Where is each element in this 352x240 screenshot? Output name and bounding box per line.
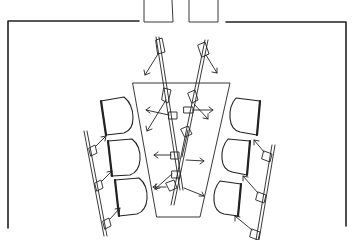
chair-icon <box>108 139 140 176</box>
chair-icon <box>101 97 133 135</box>
room-floor-plan <box>0 0 352 240</box>
door-panel-right <box>189 0 218 22</box>
chair-icon <box>222 139 250 175</box>
room-walls <box>8 21 346 228</box>
chair-icon <box>230 98 260 135</box>
center-left-stand <box>144 37 183 190</box>
double-door <box>144 0 218 22</box>
chairs-right <box>214 98 260 216</box>
chair-icon <box>214 181 241 216</box>
door-panel-left <box>144 0 173 22</box>
center-right-stand <box>153 40 217 205</box>
chairs-left <box>101 97 147 216</box>
